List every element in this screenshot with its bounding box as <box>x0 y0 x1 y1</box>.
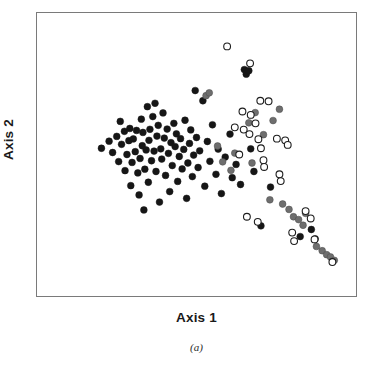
data-point <box>284 141 291 148</box>
data-point <box>164 126 171 133</box>
data-point <box>227 131 234 138</box>
data-point <box>239 108 246 115</box>
data-point <box>160 110 167 117</box>
data-point <box>187 126 194 133</box>
data-point <box>231 124 238 131</box>
data-point <box>129 159 136 166</box>
data-point <box>257 97 264 104</box>
data-point <box>170 120 177 127</box>
scatter-plot-figure: Axis 2 Axis 1 (a) <box>0 0 365 368</box>
data-point <box>276 171 283 178</box>
data-point <box>273 135 280 142</box>
data-point <box>195 164 202 171</box>
data-point <box>213 171 220 178</box>
data-point <box>279 201 286 208</box>
data-point <box>236 151 243 158</box>
data-point <box>266 196 273 203</box>
data-point <box>329 259 336 266</box>
data-point <box>246 131 253 138</box>
data-point <box>218 190 225 197</box>
data-point <box>291 238 298 245</box>
data-point <box>247 111 254 118</box>
data-point <box>126 125 133 132</box>
data-point <box>109 149 116 156</box>
data-point <box>140 207 147 214</box>
data-point <box>174 178 181 185</box>
data-point <box>229 174 236 181</box>
data-point <box>133 127 140 134</box>
scatter-canvas <box>37 13 356 296</box>
panel-caption: (a) <box>36 341 357 353</box>
data-point <box>118 141 125 148</box>
data-point <box>176 153 183 160</box>
data-point <box>151 148 158 155</box>
data-point <box>244 213 251 220</box>
data-point <box>146 137 153 144</box>
data-point <box>138 116 145 123</box>
data-point <box>162 172 169 179</box>
data-point <box>249 160 256 167</box>
data-point <box>134 169 141 176</box>
data-point <box>245 119 252 126</box>
data-point <box>148 157 155 164</box>
data-point <box>153 168 160 175</box>
data-point <box>224 43 231 50</box>
data-point <box>165 150 172 157</box>
data-point <box>313 243 320 250</box>
data-point <box>247 60 254 67</box>
data-point <box>184 160 191 167</box>
data-point <box>154 133 161 140</box>
data-point <box>179 166 186 173</box>
data-point <box>155 122 162 129</box>
data-point <box>258 145 265 152</box>
data-point <box>141 166 148 173</box>
data-point <box>186 140 193 147</box>
data-point <box>161 135 168 142</box>
data-point <box>122 167 129 174</box>
data-point <box>201 183 208 190</box>
data-point <box>189 173 196 180</box>
data-point <box>143 147 150 154</box>
data-point <box>149 113 156 120</box>
data-point <box>127 182 134 189</box>
data-point <box>228 167 235 174</box>
data-point <box>261 164 268 171</box>
data-point <box>117 118 124 125</box>
data-point <box>204 138 211 145</box>
data-point <box>219 158 226 165</box>
data-point <box>286 206 293 213</box>
data-point <box>289 229 296 236</box>
data-point <box>270 117 277 124</box>
data-point <box>115 158 122 165</box>
data-point <box>206 89 213 96</box>
series-open-circle <box>224 43 336 265</box>
data-point <box>295 216 302 223</box>
data-point <box>237 181 244 188</box>
data-point <box>214 143 221 150</box>
data-point <box>302 208 309 215</box>
data-point <box>277 178 284 185</box>
data-point <box>252 120 259 127</box>
data-point <box>145 179 152 186</box>
data-point <box>144 103 151 110</box>
data-point <box>152 100 159 107</box>
data-point <box>172 143 179 150</box>
data-point <box>166 188 173 195</box>
data-point <box>182 117 189 124</box>
data-point <box>136 192 143 199</box>
plot-area <box>36 12 357 297</box>
data-point <box>183 195 190 202</box>
data-point <box>240 126 247 133</box>
data-point <box>297 233 304 240</box>
data-point <box>158 156 165 163</box>
data-point <box>130 136 137 143</box>
data-point <box>207 158 214 165</box>
data-point <box>113 133 120 140</box>
data-point <box>106 138 113 145</box>
data-point <box>124 151 131 158</box>
data-point <box>265 98 272 105</box>
data-point <box>254 218 261 225</box>
data-point <box>209 121 216 128</box>
data-point <box>247 145 254 152</box>
y-axis-label: Axis 2 <box>1 80 16 200</box>
